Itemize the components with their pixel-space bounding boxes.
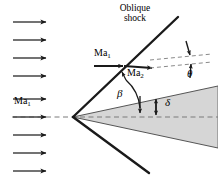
theta-ray-deflected — [150, 62, 212, 68]
freestream-mach-label: Ma1 — [14, 96, 31, 107]
downstream-mach-label: Ma2 — [127, 68, 144, 79]
oblique-shock-label-line1: Oblique — [120, 3, 151, 13]
freestream-mach-symbol: Ma — [14, 95, 27, 106]
upstream-mach-subscript: 1 — [107, 52, 111, 60]
upstream-mach-symbol: Ma — [94, 47, 107, 58]
oblique-shock-lines — [73, 17, 178, 173]
oblique-shock-diagram: Oblique shock Ma1 Ma1 Ma2 β θ δ — [0, 0, 218, 184]
delta-label: δ — [165, 97, 170, 109]
theta-ray-horizontal — [150, 54, 212, 60]
downstream-mach-subscript: 2 — [140, 72, 144, 80]
downstream-mach-symbol: Ma — [127, 67, 140, 78]
upstream-mach-label: Ma1 — [94, 48, 111, 59]
beta-label: β — [117, 88, 122, 100]
oblique-shock-label-line2: shock — [124, 13, 146, 23]
diagram-canvas — [0, 0, 218, 184]
oblique-shock-label: Oblique shock — [104, 4, 166, 24]
theta-dashed-rays — [150, 54, 212, 68]
theta-arrow-upper — [186, 41, 190, 55]
theta-label: θ — [187, 68, 192, 80]
freestream-mach-subscript: 1 — [27, 100, 31, 108]
